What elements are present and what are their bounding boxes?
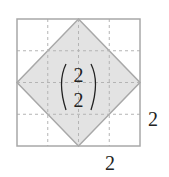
bottom-label: 2 <box>105 152 115 174</box>
diagram-canvas: 2 2 2 2 <box>0 0 169 177</box>
side-label: 2 <box>148 108 158 130</box>
vector-top: 2 <box>74 64 84 86</box>
vector-bottom: 2 <box>74 89 84 111</box>
